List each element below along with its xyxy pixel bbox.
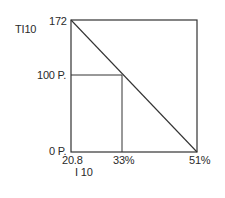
x-tick-51: 51% [189, 154, 210, 166]
y-tick-172: 172 [49, 15, 67, 27]
x-tick-20-8: 20.8 [62, 154, 83, 166]
x-tick-33: 33% [113, 154, 134, 166]
diagonal-line [71, 20, 197, 152]
y-tick-100p: 100 P. [37, 69, 66, 81]
y-axis-title: TI10 [15, 23, 36, 35]
x-axis-title: I 10 [75, 166, 93, 178]
